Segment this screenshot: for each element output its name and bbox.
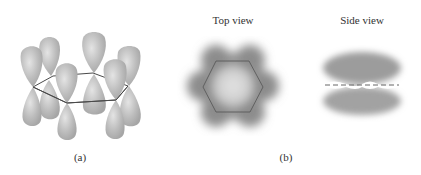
panel-b-caption: (b) [280,152,293,163]
electron-cloud-below-plane [323,87,401,115]
p-orbital-lobe-front-center-lower [57,103,76,140]
side-view-title: Side view [340,15,384,26]
p-orbital-lobe-back-mid-upper [82,32,106,73]
panel-b-top-view [187,45,279,127]
panel-a-caption: (a) [74,152,86,163]
benzene-orbital-diagram [0,0,421,175]
p-orbital-lobe-front-center-upper [55,63,77,103]
p-orbital-lobe-front-left-lower [22,87,41,126]
panel-b-side-view [322,52,402,115]
p-orbital-lobe-front-left-upper [21,46,43,87]
electron-cloud-above-plane [323,52,401,84]
top-view-title: Top view [212,15,253,26]
p-orbital-lobe-back-left-lower [40,80,60,119]
panel-a-benzene-p-orbitals [21,32,141,140]
delocalized-electron-cloud-top [187,45,279,127]
p-orbital-lobe-back-mid-lower [83,74,106,115]
p-orbital-lobe-front-right-upper [104,59,127,100]
